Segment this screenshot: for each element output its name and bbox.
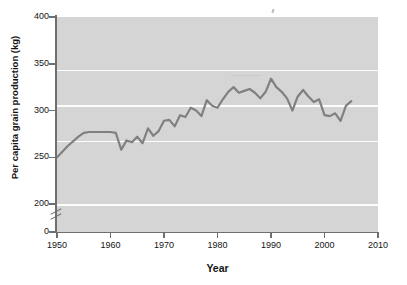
x-tick-1970 [163,232,165,238]
x-tick-2000 [324,232,326,238]
chart-root: 0200250300350400 19501960197019801990200… [0,0,407,285]
x-tick-1980 [217,232,219,238]
x-tick-label-2000: 2000 [305,240,345,250]
x-axis-title: Year [57,262,378,274]
x-tick-label-1950: 1950 [37,240,77,250]
scan-artifact [271,9,274,13]
y-tick-400 [49,16,55,18]
plot-area [57,17,378,232]
y-axis-title: Per capita grain production (kg) [9,8,20,208]
x-tick-label-1960: 1960 [91,240,131,250]
y-tick-200 [49,203,55,205]
x-tick-1990 [270,232,272,238]
x-tick-2010 [377,232,379,238]
scan-artifact [231,75,261,76]
x-tick-label-1990: 1990 [251,240,291,250]
y-tick-label-0: 0 [9,226,49,236]
x-tick-label-1970: 1970 [144,240,184,250]
x-tick-1950 [56,232,58,238]
data-line-series [57,17,378,232]
y-tick-300 [49,110,55,112]
y-tick-250 [49,157,55,159]
y-axis-line [55,15,57,233]
series-polyline [57,79,351,158]
x-tick-label-2010: 2010 [358,240,398,250]
y-tick-0 [49,231,55,233]
x-tick-1960 [110,232,112,238]
y-tick-350 [49,63,55,65]
x-tick-label-1980: 1980 [198,240,238,250]
